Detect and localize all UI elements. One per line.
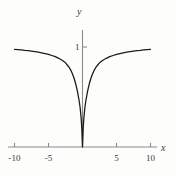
y-tick-label: 1 xyxy=(75,43,80,52)
chart-figure: -10-5510 1 x y xyxy=(0,0,176,175)
plot-canvas xyxy=(0,0,176,175)
x-axis-label: x xyxy=(161,143,165,153)
y-axis-label: y xyxy=(77,7,81,17)
x-tick-label: -5 xyxy=(45,154,53,163)
x-tick-label: -10 xyxy=(8,154,20,163)
x-tick-label: 5 xyxy=(114,154,119,163)
x-tick-label: 10 xyxy=(146,154,155,163)
